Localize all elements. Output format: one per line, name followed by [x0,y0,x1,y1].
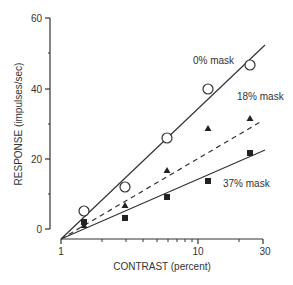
square-marker [81,219,87,225]
x-axis-label: CONTRAST (percent) [113,261,211,272]
x-tick-label-1: 1 [58,246,64,257]
y-tick-label-40: 40 [31,84,43,95]
y-axis-label: RESPONSE (impulses/sec) [13,63,24,186]
series-18-mask-markers [81,115,254,228]
triangle-marker [164,167,171,173]
series-label-37-mask: 37% mask [223,178,271,189]
square-marker [122,215,128,221]
x-tick-label-30: 30 [259,246,271,257]
open-circle-marker [203,84,213,94]
y-tick-label-60: 60 [31,13,43,24]
series-label-18-mask: 18% mask [237,91,285,102]
series-label-0-mask: 0% mask [193,55,235,66]
open-circle-marker [120,182,130,192]
y-tick-label-20: 20 [31,154,43,165]
response-contrast-chart: 60 40 20 0 RESPONSE (impulses/sec) 1 10 … [0,0,293,285]
square-marker [247,150,253,156]
x-tick-label-10: 10 [192,246,204,257]
open-circle-marker [162,133,172,143]
square-marker [205,178,211,184]
open-circle-marker [79,206,89,216]
triangle-marker [122,202,129,208]
open-circle-marker [245,60,255,70]
y-tick-label-0: 0 [36,224,42,235]
triangle-marker [205,125,212,131]
fit-line-37-mask [61,150,265,239]
fit-line-0-mask [61,45,265,239]
square-marker [164,194,170,200]
triangle-marker [247,115,254,121]
